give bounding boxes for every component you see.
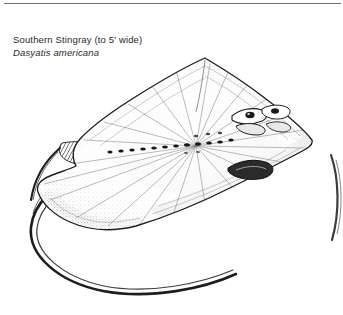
eye-right (271, 108, 279, 114)
stingray-illustration (0, 0, 343, 315)
fragment-outer-arc (331, 155, 338, 240)
adjacent-plate-fragment (331, 155, 341, 240)
eye-left (245, 112, 254, 118)
eye-left-highlight (247, 113, 250, 115)
illustration-plate: Southern Stingray (to 5' wide) Dasyatis … (0, 0, 343, 315)
